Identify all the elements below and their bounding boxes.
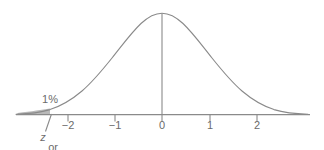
critical-value-z-label: z <box>33 131 53 143</box>
x-tick-label-zero: 0 <box>150 119 174 131</box>
x-tick-label-plus-1: 1 <box>198 119 222 131</box>
x-tick-label-minus-2: −2 <box>56 119 80 131</box>
x-tick-label-minus-1: −1 <box>103 119 127 131</box>
tail-percent-text: 1% <box>8 91 58 107</box>
x-tick-label-plus-2: 2 <box>245 119 269 131</box>
normal-curve-figure: 1% or 0.01 −2 −1 0 1 2 z <box>0 0 324 150</box>
